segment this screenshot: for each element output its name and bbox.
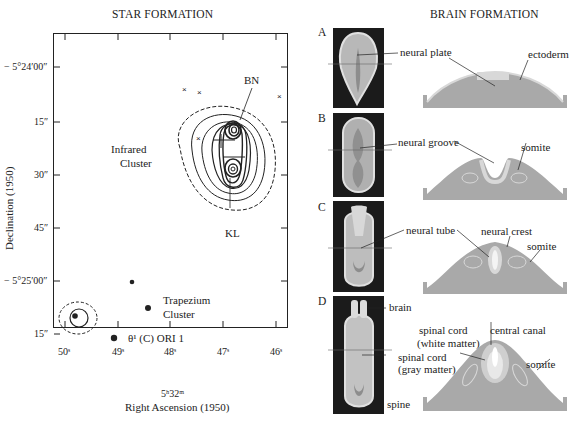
label-ectoderm: ectoderm — [528, 48, 569, 60]
label-somite-b: somite — [521, 141, 550, 153]
label-central-canal: central canal — [490, 324, 546, 336]
label-somite-d: somite — [526, 358, 555, 370]
label-neural-crest: neural crest — [481, 225, 532, 237]
label-spine: spine — [387, 398, 410, 410]
label-spinal-cord-gray-2: (gray matter) — [398, 363, 456, 375]
label-neural-plate: neural plate — [400, 46, 452, 58]
label-brain: brain — [389, 301, 412, 313]
brain-leader-lines — [0, 0, 578, 421]
label-spinal-cord-gray-1: spinal cord — [398, 351, 447, 363]
label-spinal-cord-white-2: (white matter) — [417, 337, 480, 349]
label-spinal-cord-white-1: spinal cord — [419, 324, 468, 336]
label-neural-groove: neural groove — [398, 136, 459, 148]
label-somite-c: somite — [527, 240, 556, 252]
label-neural-tube: neural tube — [406, 224, 455, 236]
